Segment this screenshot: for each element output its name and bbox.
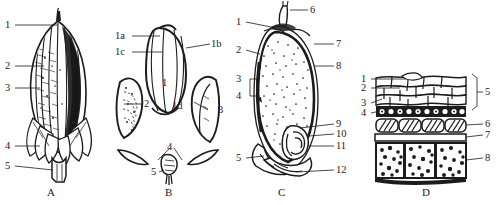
panel-b-label-3: 3: [218, 105, 223, 116]
panel-a-label-2: 2: [5, 61, 10, 72]
panel-d-label-2: 2: [361, 83, 366, 94]
panel-c: 1 2 3 4 5 6 7 8 9 10 11 12 C: [230, 0, 358, 205]
panel-c-label-10: 10: [336, 129, 347, 140]
panel-b-label-1b: 1b: [211, 39, 222, 50]
panel-b-label-1d: 1d: [172, 101, 183, 112]
panel-b-caption: B: [165, 186, 172, 198]
panel-a: 1 2 3 4 5 A: [0, 0, 112, 205]
panel-b: 1a 1c 1b 1 1d 2 3 4 5 B: [112, 0, 230, 205]
panel-c-label-4: 4: [236, 91, 241, 102]
panel-c-label-6: 6: [310, 5, 315, 16]
panel-d-label-6: 6: [485, 119, 490, 130]
panel-b-label-1a: 1a: [115, 31, 125, 42]
panel-c-label-5: 5: [236, 153, 241, 164]
panel-c-label-2: 2: [236, 45, 241, 56]
panel-d-label-5: 5: [485, 87, 490, 98]
panel-b-label-2: 2: [144, 99, 149, 110]
panel-c-label-12: 12: [336, 165, 347, 176]
botanical-figure-plate: 1 2 3 4 5 A: [0, 0, 497, 205]
panel-b-label-1: 1: [162, 78, 167, 89]
panel-a-drawing: [0, 0, 112, 205]
panel-a-caption: A: [47, 186, 55, 198]
panel-c-label-7: 7: [336, 39, 341, 50]
panel-a-label-5: 5: [5, 161, 10, 172]
panel-c-caption: C: [278, 186, 285, 198]
panel-d-drawing: [358, 0, 497, 205]
panel-b-label-1c: 1c: [115, 47, 125, 58]
panel-a-label-3: 3: [5, 83, 10, 94]
panel-d-label-4: 4: [361, 108, 366, 119]
panel-c-label-1: 1: [236, 17, 241, 28]
panel-d-caption: D: [422, 186, 430, 198]
panel-c-label-3: 3: [236, 74, 241, 85]
panel-a-label-1: 1: [5, 20, 10, 31]
panel-c-label-11: 11: [336, 141, 346, 152]
panel-b-label-5: 5: [151, 167, 156, 178]
panel-b-drawing: [112, 0, 230, 205]
panel-c-label-8: 8: [336, 61, 341, 72]
panel-a-label-4: 4: [5, 141, 10, 152]
panel-d-label-7: 7: [485, 130, 490, 141]
panel-d: 1 2 3 4 5 6 7 8 D: [358, 0, 497, 205]
panel-d-label-8: 8: [485, 153, 490, 164]
panel-b-label-4: 4: [167, 142, 172, 153]
